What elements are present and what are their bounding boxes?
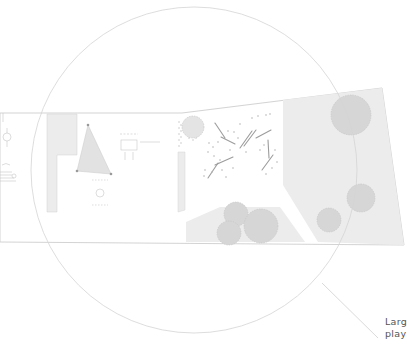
tree-icon [347,184,375,212]
tree-icon [244,209,278,243]
tree-icon [317,208,341,232]
callout-label: Larg play [385,316,407,340]
planter-strip [178,152,185,212]
tree-icon [182,116,204,138]
tree-icon [217,221,241,245]
tree-icon [331,95,371,135]
callout-leader-line [322,283,378,338]
site-plan-drawing [0,0,407,345]
callout-line-1: Larg [385,316,407,328]
callout-line-2: play [385,328,407,340]
